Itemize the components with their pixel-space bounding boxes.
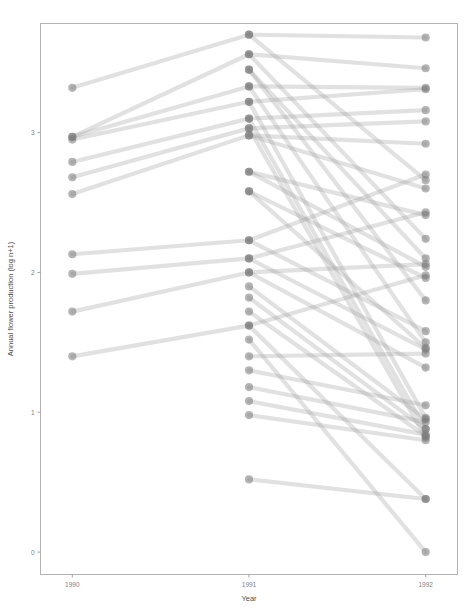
series-points-layer (68, 31, 430, 557)
data-point (245, 31, 253, 39)
data-point (422, 64, 430, 72)
data-point (422, 344, 430, 352)
x-axis-tick-label: 1991 (242, 581, 257, 588)
data-point (245, 294, 253, 302)
data-point (422, 117, 430, 125)
data-point (422, 140, 430, 148)
data-point (422, 263, 430, 271)
data-point (245, 475, 253, 483)
y-axis-tick-label: 0 (31, 549, 35, 556)
data-point (422, 211, 430, 219)
data-point (68, 250, 76, 258)
data-point (422, 254, 430, 262)
y-axis-tick-label: 3 (31, 129, 35, 136)
data-point (68, 190, 76, 198)
data-point (245, 131, 253, 139)
data-point (422, 495, 430, 503)
data-point (245, 411, 253, 419)
data-point (245, 352, 253, 360)
data-point (245, 307, 253, 315)
series-line (72, 135, 249, 194)
y-axis-tick-label: 1 (31, 409, 35, 416)
data-point (245, 187, 253, 195)
data-point (68, 270, 76, 278)
series-line (72, 272, 249, 311)
data-point (422, 106, 430, 114)
data-point (422, 33, 430, 41)
data-point (245, 335, 253, 343)
data-point (245, 397, 253, 405)
series-lines-layer (72, 35, 425, 552)
x-axis-tick-label: 1990 (65, 581, 80, 588)
data-point (245, 366, 253, 374)
data-point (245, 50, 253, 58)
series-line (249, 35, 426, 38)
series-line (72, 258, 249, 273)
series-line (72, 35, 249, 88)
y-axis-tick-label: 2 (31, 269, 35, 276)
series-line (249, 86, 426, 87)
data-point (245, 236, 253, 244)
data-point (245, 383, 253, 391)
data-point (245, 66, 253, 74)
data-point (422, 327, 430, 335)
data-point (245, 282, 253, 290)
data-point (245, 254, 253, 262)
data-point (245, 321, 253, 329)
data-point (422, 418, 430, 426)
data-point (68, 158, 76, 166)
series-line (72, 326, 249, 357)
data-point (245, 115, 253, 123)
data-point (68, 307, 76, 315)
data-point (245, 82, 253, 90)
data-point (422, 235, 430, 243)
series-line (72, 240, 249, 254)
series-line (249, 354, 426, 357)
data-point (422, 548, 430, 556)
data-point (245, 98, 253, 106)
data-point (422, 436, 430, 444)
data-point (245, 268, 253, 276)
data-point (422, 85, 430, 93)
data-point (422, 296, 430, 304)
data-point (245, 168, 253, 176)
series-line (249, 191, 426, 278)
data-point (422, 363, 430, 371)
x-axis-title: Year (241, 594, 257, 603)
chart-canvas: 0123199019911992YearAnnual flower produc… (0, 0, 471, 613)
data-point (422, 184, 430, 192)
x-axis-tick-label: 1992 (418, 581, 433, 588)
flower-production-slopegraph: 0123199019911992YearAnnual flower produc… (0, 0, 471, 613)
data-point (245, 124, 253, 132)
data-point (68, 135, 76, 143)
series-line (249, 479, 426, 499)
data-point (68, 84, 76, 92)
data-point (422, 274, 430, 282)
data-point (422, 401, 430, 409)
data-point (422, 176, 430, 184)
data-point (68, 352, 76, 360)
y-axis-title: Annual flower production (log n+1) (6, 241, 15, 356)
data-point (68, 173, 76, 181)
series-line (249, 110, 426, 118)
